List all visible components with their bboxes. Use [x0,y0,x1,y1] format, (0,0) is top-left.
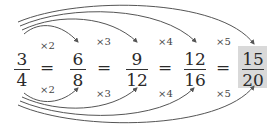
multiplier-top-2: ×3 [96,36,111,47]
denominator: 20 [242,71,264,89]
numerator: 6 [73,50,84,68]
fraction-1: 3 4 [14,50,30,89]
fraction-3: 9 12 [126,50,148,89]
denominator: 16 [184,71,206,89]
equals-sign: = [97,57,111,77]
equals-sign: = [158,57,172,77]
multiplier-bottom-2: ×3 [96,88,111,99]
denominator: 4 [17,71,28,89]
denominator: 12 [126,71,148,89]
fraction-4: 12 16 [184,50,206,89]
fraction-2: 6 8 [70,50,86,89]
denominator: 8 [73,71,84,89]
multiplier-bottom-1: ×2 [40,84,55,95]
numerator: 9 [132,50,143,68]
multiplier-bottom-4: ×5 [216,88,231,99]
multiplier-top-1: ×2 [40,40,55,51]
fraction-5: 15 20 [242,50,264,89]
multiplier-top-4: ×5 [216,36,231,47]
multiplier-bottom-3: ×4 [158,88,173,99]
numerator: 15 [242,50,264,68]
equals-sign: = [40,57,54,77]
numerator: 3 [17,50,28,68]
numerator: 12 [184,50,206,68]
equals-sign: = [216,57,230,77]
multiplier-top-3: ×4 [158,36,173,47]
